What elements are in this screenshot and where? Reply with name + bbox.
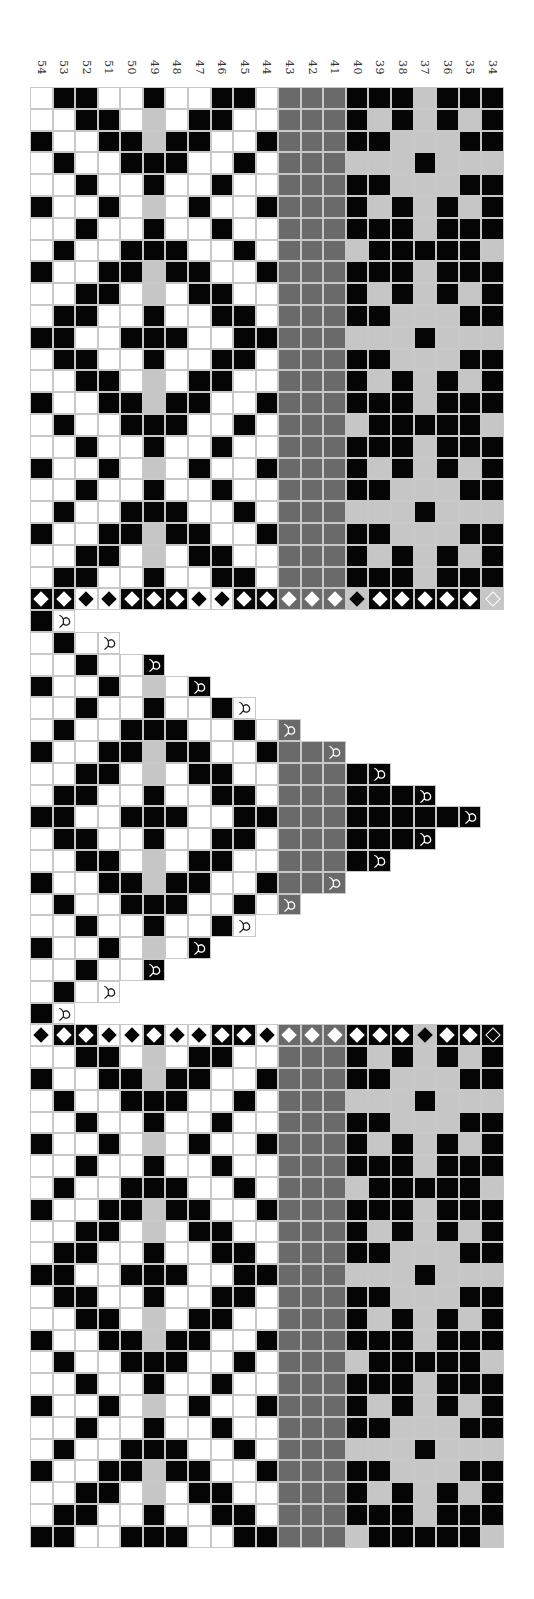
grid-cell <box>391 1024 414 1046</box>
diamond-black-icon <box>101 1028 117 1044</box>
grid-cell <box>53 1221 76 1243</box>
grid-cell <box>256 1177 279 1199</box>
grid-cell <box>278 741 301 763</box>
grid-cell <box>436 1439 459 1461</box>
grid-cell <box>391 1417 414 1439</box>
diamond-white-icon <box>56 1028 72 1044</box>
grid-cell <box>391 1133 414 1155</box>
grid-cell <box>459 588 482 610</box>
diamond-white-icon <box>440 592 456 608</box>
grid-cell <box>278 1221 301 1243</box>
grid-cell <box>211 131 234 153</box>
grid-cell <box>459 1460 482 1482</box>
diamond-white-icon <box>56 592 72 608</box>
grid-cell <box>256 523 279 545</box>
grid-cell <box>256 458 279 480</box>
grid-cell <box>368 1526 391 1548</box>
grid-cell <box>459 458 482 480</box>
grid-cell <box>368 545 391 567</box>
pattern-row <box>30 349 504 371</box>
column-label-text: 42 <box>306 60 319 75</box>
grid-cell <box>143 436 166 458</box>
grid-cell <box>233 763 256 785</box>
grid-cell <box>233 87 256 109</box>
grid-cell <box>323 806 346 828</box>
diamond-black-icon <box>259 1028 275 1044</box>
grid-cell <box>436 1395 459 1417</box>
grid-cell <box>98 1351 121 1373</box>
grid-cell <box>436 1351 459 1373</box>
grid-cell <box>301 1330 324 1352</box>
grid-cell <box>188 1460 211 1482</box>
grid-cell <box>165 109 188 131</box>
grid-cell <box>346 806 369 828</box>
grid-cell <box>120 676 143 698</box>
grid-cell <box>233 1264 256 1286</box>
grid-cell <box>233 283 256 305</box>
grid-cell <box>414 436 437 458</box>
grid-cell <box>53 915 76 937</box>
grid-cell <box>120 1504 143 1526</box>
grid-cell <box>301 1155 324 1177</box>
grid-cell <box>98 1090 121 1112</box>
grid-cell <box>211 1460 234 1482</box>
grid-cell <box>53 196 76 218</box>
grid-cell <box>301 87 324 109</box>
grid-cell <box>278 719 301 741</box>
grid-cell <box>481 87 504 109</box>
grid-cell <box>53 283 76 305</box>
grid-cell <box>120 894 143 916</box>
grid-cell <box>143 523 166 545</box>
grid-cell <box>346 349 369 371</box>
grid-cell <box>256 1199 279 1221</box>
grid-cell <box>233 1504 256 1526</box>
grid-cell <box>98 1526 121 1548</box>
grid-cell <box>436 501 459 523</box>
grid-cell <box>391 806 414 828</box>
bottom-pattern-grid <box>30 1046 504 1547</box>
grid-cell <box>30 1242 53 1264</box>
grid-cell <box>323 283 346 305</box>
grid-cell <box>391 828 414 850</box>
grid-cell <box>75 1133 98 1155</box>
grid-cell <box>30 654 53 676</box>
diamond-black-icon <box>191 592 207 608</box>
grid-cell <box>391 283 414 305</box>
column-label: 37 <box>414 52 437 82</box>
fish-icon <box>144 655 165 675</box>
grid-cell <box>211 1155 234 1177</box>
grid-cell <box>346 414 369 436</box>
grid-cell <box>53 1460 76 1482</box>
grid-cell <box>188 697 211 719</box>
pattern-row <box>30 327 504 349</box>
grid-cell <box>436 1068 459 1090</box>
grid-cell <box>53 981 76 1003</box>
grid-cell <box>436 1482 459 1504</box>
grid-cell <box>391 1526 414 1548</box>
grid-cell <box>98 1155 121 1177</box>
grid-cell <box>481 1373 504 1395</box>
grid-cell <box>98 1242 121 1264</box>
grid-cell <box>278 1395 301 1417</box>
grid-cell <box>391 436 414 458</box>
grid-cell <box>391 523 414 545</box>
grid-cell <box>165 1395 188 1417</box>
grid-cell <box>143 1286 166 1308</box>
grid-cell <box>323 828 346 850</box>
grid-cell <box>233 1242 256 1264</box>
grid-cell <box>165 218 188 240</box>
grid-cell <box>211 1068 234 1090</box>
grid-cell <box>211 218 234 240</box>
grid-cell <box>323 1024 346 1046</box>
grid-cell <box>30 567 53 589</box>
grid-cell <box>53 1482 76 1504</box>
grid-cell <box>53 1090 76 1112</box>
grid-cell <box>368 828 391 850</box>
grid-cell <box>30 872 53 894</box>
grid-cell <box>98 370 121 392</box>
grid-cell <box>98 1133 121 1155</box>
grid-cell <box>30 1417 53 1439</box>
grid-cell <box>53 937 76 959</box>
grid-cell <box>414 806 437 828</box>
grid-cell <box>278 305 301 327</box>
